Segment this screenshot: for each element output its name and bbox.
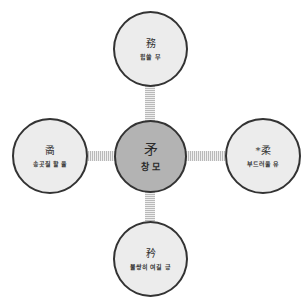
node-top-hanja: 務 xyxy=(146,38,156,50)
connector-left xyxy=(86,151,116,161)
node-left: 矞 송곳질 할 율 xyxy=(12,118,88,194)
connector-bottom xyxy=(145,190,155,224)
hanja-radial-diagram: 務 힘쓸 무 矞 송곳질 할 율 矛 창 모 *柔 부드러울 유 矜 불쌍히 여… xyxy=(0,0,301,306)
node-bottom: 矜 불쌍히 여길 긍 xyxy=(113,221,188,297)
node-right: *柔 부드러울 유 xyxy=(225,118,301,194)
node-top: 務 힘쓸 무 xyxy=(113,11,188,87)
node-bottom-hanja: 矜 xyxy=(146,248,156,260)
node-center-hanja: 矛 xyxy=(144,141,158,157)
connector-right xyxy=(184,151,228,161)
node-center-meaning: 창 모 xyxy=(141,162,160,172)
node-right-hanja: *柔 xyxy=(256,145,271,157)
node-right-meaning: 부드러울 유 xyxy=(247,160,279,168)
node-top-meaning: 힘쓸 무 xyxy=(140,53,160,61)
node-left-hanja: 矞 xyxy=(45,145,55,157)
node-center: 矛 창 모 xyxy=(114,120,187,193)
node-left-meaning: 송곳질 할 율 xyxy=(33,160,67,168)
node-bottom-meaning: 불쌍히 여길 긍 xyxy=(130,263,170,271)
connector-top xyxy=(145,86,155,122)
